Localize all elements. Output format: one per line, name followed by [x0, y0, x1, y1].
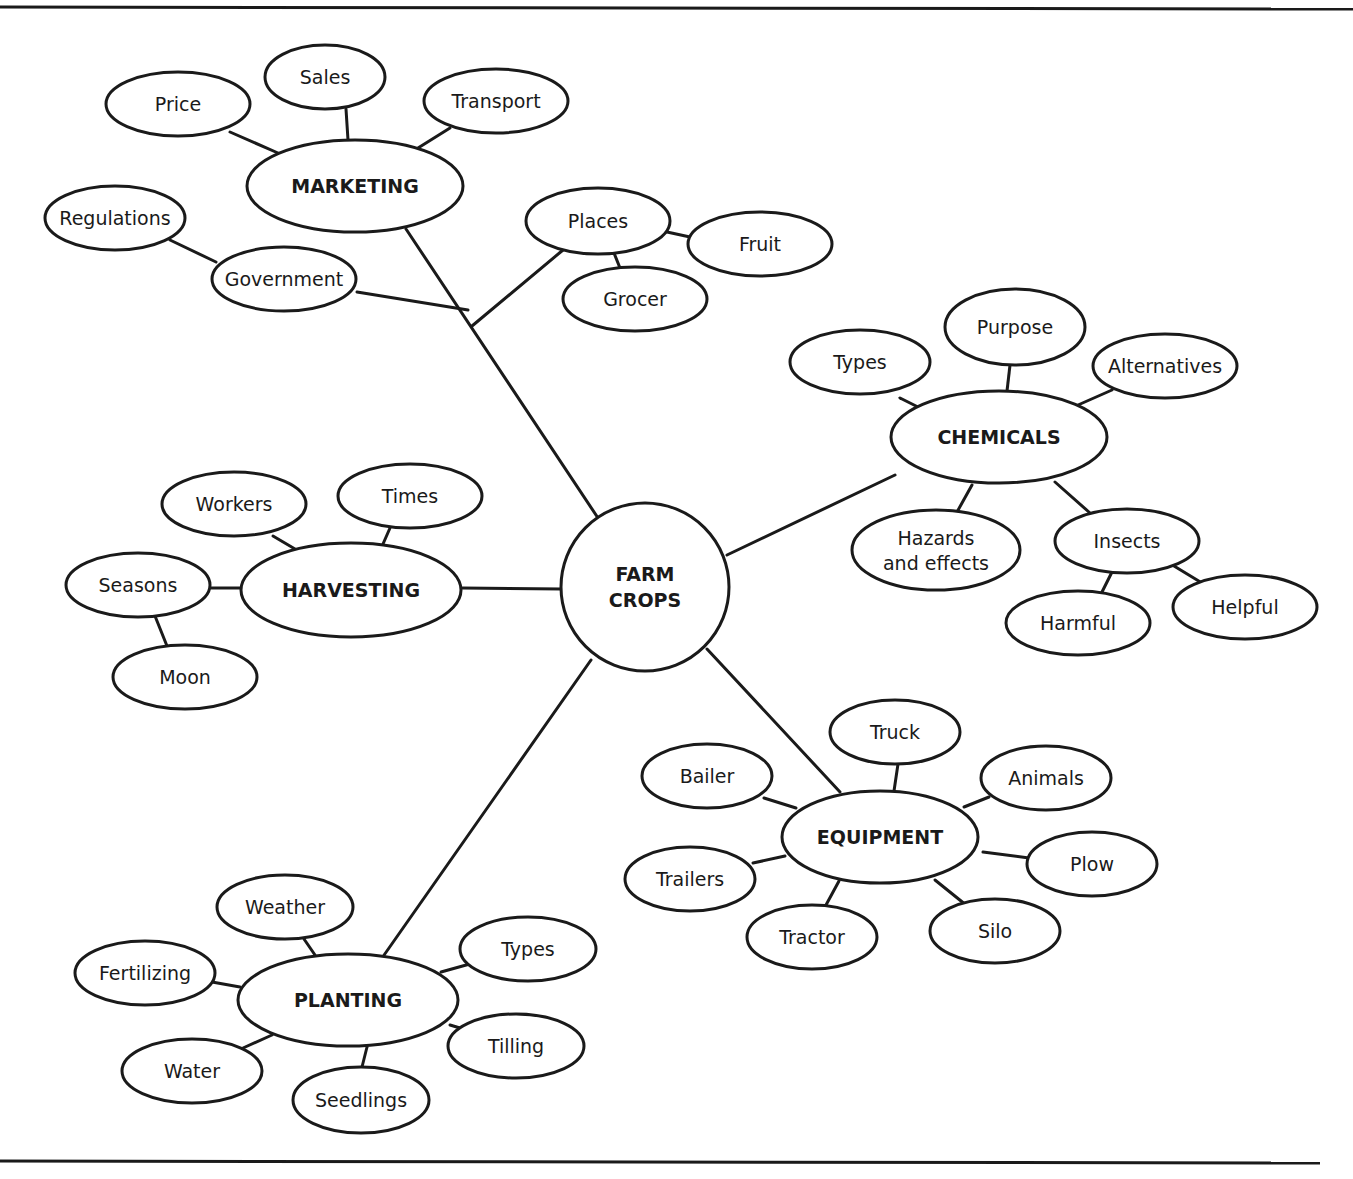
node-helpful[interactable]: Helpful [1173, 575, 1317, 639]
node-moon[interactable]: Moon [113, 645, 257, 709]
node-label: Times [381, 485, 438, 507]
connector-line [472, 250, 563, 326]
node-purpose[interactable]: Purpose [945, 289, 1085, 365]
node-label: Tilling [487, 1035, 544, 1057]
node-harvesting[interactable]: HARVESTING [241, 543, 461, 637]
connector-line [957, 485, 972, 512]
node-regulations[interactable]: Regulations [45, 186, 185, 250]
node-label: PLANTING [294, 989, 402, 1011]
node-silo[interactable]: Silo [930, 899, 1060, 963]
node-transport[interactable]: Transport [424, 69, 568, 133]
node-label: Trailers [655, 868, 724, 890]
connector-line [155, 616, 167, 646]
node-label: Hazards [898, 527, 975, 549]
connector-line [273, 536, 295, 549]
node-label: Sales [300, 66, 351, 88]
node-label: CROPS [609, 589, 681, 611]
node-planting[interactable]: PLANTING [238, 954, 458, 1046]
node-label: Transport [450, 90, 540, 112]
connector-line [1174, 566, 1202, 583]
node-label: Price [155, 93, 201, 115]
page-rule-bottom [0, 1161, 1320, 1163]
node-fertilizing[interactable]: Fertilizing [75, 941, 215, 1005]
node-workers[interactable]: Workers [162, 472, 306, 536]
node-tractor[interactable]: Tractor [747, 905, 877, 969]
node-price[interactable]: Price [106, 72, 250, 136]
node-label: Plow [1070, 853, 1114, 875]
node-label: Truck [869, 721, 920, 743]
node-label: Helpful [1211, 596, 1278, 618]
connector-line [170, 240, 216, 262]
connector-line [346, 109, 348, 140]
node-chem-types[interactable]: Types [790, 330, 930, 394]
node-label: EQUIPMENT [817, 826, 943, 848]
connector-line [1055, 482, 1090, 513]
node-seedlings[interactable]: Seedlings [293, 1067, 429, 1133]
node-water[interactable]: Water [122, 1039, 262, 1103]
connector-line [230, 132, 278, 153]
node-truck[interactable]: Truck [830, 700, 960, 764]
connector-line [243, 1035, 272, 1048]
connector-line [212, 982, 240, 987]
node-government[interactable]: Government [212, 247, 356, 311]
node-alternatives[interactable]: Alternatives [1093, 334, 1237, 398]
node-plant-types[interactable]: Types [460, 917, 596, 981]
node-label: Silo [978, 920, 1012, 942]
node-bailer[interactable]: Bailer [642, 744, 772, 808]
connector-line [935, 880, 966, 905]
concept-map-canvas: FARMCROPSMARKETINGPriceSalesTransportReg… [0, 0, 1353, 1179]
connector-line [362, 1047, 367, 1067]
connector-line [894, 764, 898, 791]
connector-line [1078, 390, 1112, 405]
node-chemicals[interactable]: CHEMICALS [891, 391, 1107, 483]
node-label: Places [568, 210, 628, 232]
node-marketing[interactable]: MARKETING [247, 140, 463, 232]
page-rule-top [0, 7, 1353, 9]
node-harmful[interactable]: Harmful [1006, 591, 1150, 655]
node-label: Seasons [99, 574, 178, 596]
node-label: Grocer [603, 288, 667, 310]
connector-line [983, 852, 1029, 858]
node-label: Fruit [739, 233, 781, 255]
connector-line [418, 128, 450, 148]
connector-line [753, 856, 785, 863]
node-label: Water [164, 1060, 220, 1082]
connector-line [382, 660, 591, 958]
node-equipment[interactable]: EQUIPMENT [782, 791, 978, 883]
connector-line [462, 588, 562, 589]
node-insects[interactable]: Insects [1055, 509, 1199, 573]
node-label: FARM [615, 563, 674, 585]
node-farm-crops[interactable]: FARMCROPS [561, 503, 729, 671]
connector-line [304, 939, 315, 955]
node-label: Fertilizing [99, 962, 191, 984]
node-trailers[interactable]: Trailers [625, 847, 755, 911]
connector-line [383, 528, 390, 544]
node-seasons[interactable]: Seasons [66, 553, 210, 617]
node-label: Regulations [59, 207, 170, 229]
node-label: CHEMICALS [937, 426, 1060, 448]
node-times[interactable]: Times [338, 464, 482, 528]
node-places[interactable]: Places [526, 188, 670, 254]
node-label: Insects [1093, 530, 1160, 552]
node-label: Moon [159, 666, 211, 688]
connector-line [614, 253, 620, 268]
node-label: Bailer [680, 765, 735, 787]
connector-line [964, 797, 989, 807]
node-label: Types [500, 938, 555, 960]
node-plow[interactable]: Plow [1027, 832, 1157, 896]
node-fruit[interactable]: Fruit [688, 212, 832, 276]
node-label: Weather [245, 896, 325, 918]
node-label: Animals [1008, 767, 1084, 789]
node-label: Purpose [977, 316, 1053, 338]
node-label: Government [225, 268, 344, 290]
node-tilling[interactable]: Tilling [448, 1014, 584, 1078]
node-hazards[interactable]: Hazardsand effects [852, 510, 1020, 590]
node-sales[interactable]: Sales [265, 45, 385, 109]
connector-line [667, 232, 690, 237]
node-animals[interactable]: Animals [981, 746, 1111, 810]
node-label: HARVESTING [282, 579, 420, 601]
connector-line [764, 798, 796, 808]
node-label: Alternatives [1108, 355, 1222, 377]
node-weather[interactable]: Weather [217, 875, 353, 939]
node-grocer[interactable]: Grocer [563, 267, 707, 331]
